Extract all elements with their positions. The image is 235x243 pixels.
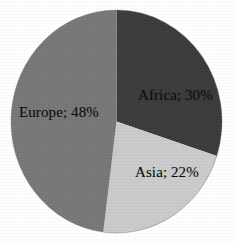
pie-slices	[11, 10, 222, 233]
pie-chart-canvas	[0, 0, 235, 243]
pie-chart-figure: Europe; 48% Africa; 30% Asia; 22%	[0, 0, 235, 243]
pie-label-europe: Europe; 48%	[19, 105, 99, 120]
pie-label-africa: Africa; 30%	[138, 88, 213, 103]
pie-label-asia: Asia; 22%	[135, 165, 199, 180]
pie-slice-europe[interactable]	[11, 10, 116, 232]
